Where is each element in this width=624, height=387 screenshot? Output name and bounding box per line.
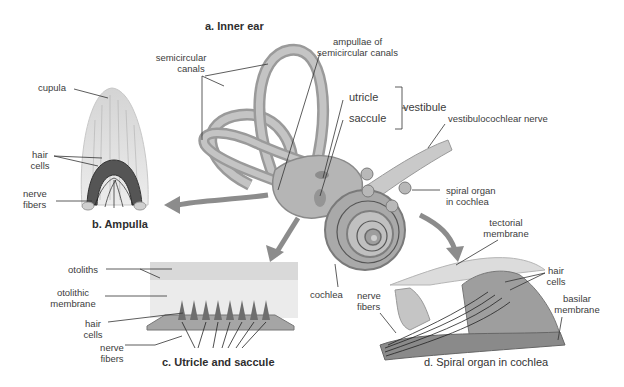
label-nerve-fibers-c: nerve fibers	[97, 342, 127, 364]
panel-c-title: c. Utricle and saccule	[162, 356, 275, 368]
panel-b-title: b. Ampulla	[92, 218, 148, 230]
label-cupula: cupula	[38, 82, 66, 93]
label-vestibule: vestibule	[403, 102, 446, 113]
panel-d-title: d. Spiral organ in cochlea	[424, 356, 548, 368]
panel-a-title: a. Inner ear	[205, 20, 264, 32]
label-hair-cells-b: hair cells	[26, 149, 54, 171]
label-nerve-fibers-d: nerve fibers	[357, 290, 381, 312]
label-otoliths: otoliths	[68, 264, 98, 275]
label-hair-cells-d: hair cells	[544, 265, 568, 287]
label-cochlea: cochlea	[310, 289, 343, 300]
label-semicircular-canals: semicircular canals	[150, 52, 212, 74]
spiral-organ-drawing	[380, 258, 565, 360]
label-utricle: utricle	[349, 92, 378, 103]
label-saccule: saccule	[349, 113, 386, 124]
label-vestibulocochlear-nerve: vestibulocochlear nerve	[448, 113, 548, 124]
label-basilar-membrane: basilar membrane	[553, 293, 601, 315]
label-hair-cells-c: hair cells	[80, 318, 106, 340]
label-otolithic-membrane: otolithic membrane	[44, 287, 102, 309]
label-tectorial-membrane: tectorial membrane	[482, 217, 530, 239]
label-nerve-fibers-b: nerve fibers	[23, 188, 47, 210]
label-spiral-organ: spiral organ in cochlea	[446, 185, 496, 207]
utricle-saccule-drawing	[147, 262, 298, 348]
ampulla-drawing	[81, 88, 148, 210]
label-ampullae: ampullae of semicircular canals	[305, 36, 410, 58]
inner-ear-drawing	[164, 50, 464, 270]
